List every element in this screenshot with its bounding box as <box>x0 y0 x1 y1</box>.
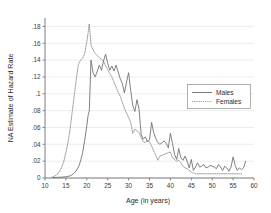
x-tick-label: 20 <box>83 182 91 189</box>
y-tick-label: .08 <box>32 107 41 114</box>
legend: Males Females <box>188 85 251 109</box>
chart-figure: 0.02.04.06.08.1.12.14.16.18 101520253035… <box>0 0 271 213</box>
legend-label-males: Males <box>216 89 234 96</box>
x-tick-label: 35 <box>146 182 154 189</box>
x-tick-label: 50 <box>209 182 217 189</box>
y-tick-label: .12 <box>32 73 41 80</box>
y-axis-ticks: 0.02.04.06.08.1.12.14.16.18 <box>32 23 45 182</box>
y-tick-label: .04 <box>32 141 41 148</box>
legend-label-females: Females <box>216 98 242 105</box>
hazard-rate-line-chart: 0.02.04.06.08.1.12.14.16.18 101520253035… <box>0 0 271 213</box>
y-tick-label: .18 <box>32 23 41 30</box>
y-tick-label: 0 <box>37 174 41 181</box>
x-axis-title: Age (in years) <box>126 197 170 205</box>
y-tick-label: .06 <box>32 124 41 131</box>
y-tick-label: .02 <box>32 157 41 164</box>
x-tick-label: 25 <box>104 182 112 189</box>
y-axis-title: NA Estimate of Hazard Rate <box>7 54 15 143</box>
y-tick-label: .14 <box>32 56 41 63</box>
x-tick-label: 40 <box>167 182 175 189</box>
y-tick-label: .16 <box>32 40 41 47</box>
x-tick-label: 15 <box>62 182 70 189</box>
x-axis-ticks: 1015202530354045505560 <box>41 178 258 189</box>
x-tick-label: 45 <box>188 182 196 189</box>
x-tick-label: 30 <box>125 182 133 189</box>
x-tick-label: 55 <box>230 182 238 189</box>
x-tick-label: 10 <box>41 182 49 189</box>
y-tick-label: .1 <box>35 90 41 97</box>
x-tick-label: 60 <box>250 182 258 189</box>
